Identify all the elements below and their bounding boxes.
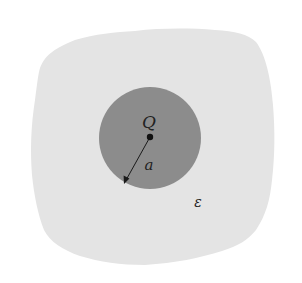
diagram-canvas: Q a ε [0, 0, 302, 283]
charge-point [147, 134, 153, 140]
charge-label: Q [142, 112, 156, 132]
permittivity-label: ε [194, 194, 202, 210]
radius-label: a [145, 156, 154, 174]
